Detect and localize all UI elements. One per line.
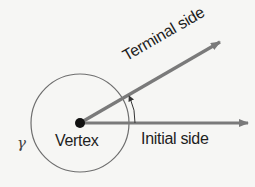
terminal-side-ray bbox=[80, 42, 220, 123]
diagram-graphics bbox=[0, 0, 255, 187]
vertex-label: Vertex bbox=[55, 133, 99, 149]
gamma-symbol: γ bbox=[17, 136, 26, 151]
initial-side-label: Initial side bbox=[141, 131, 209, 147]
vertex-dot bbox=[75, 118, 85, 128]
angle-arc bbox=[130, 98, 135, 123]
angle-diagram: Terminal side Initial side Vertex γ bbox=[0, 0, 255, 187]
